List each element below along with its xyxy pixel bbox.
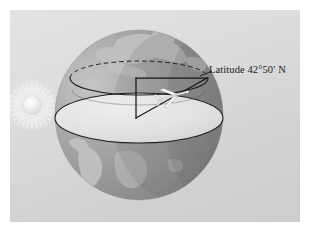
globe-diagram xyxy=(0,0,313,234)
latitude-label: Latitude 42°50′ N xyxy=(209,64,286,76)
cut-plane xyxy=(55,93,223,143)
figure-root: Latitude 42°50′ N xyxy=(0,0,313,234)
sun-icon xyxy=(5,78,59,132)
